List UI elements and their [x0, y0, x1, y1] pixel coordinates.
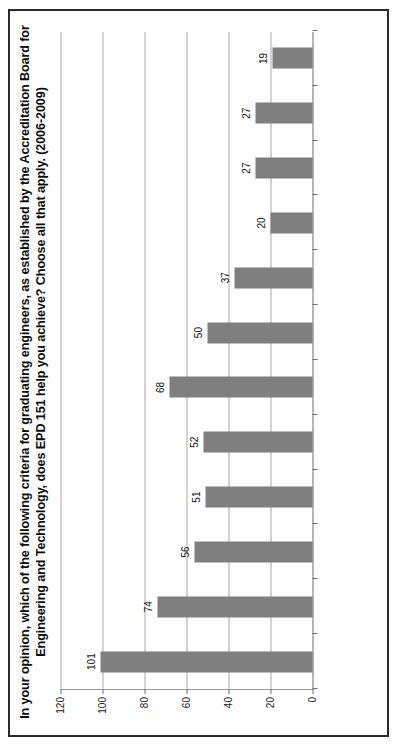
bar[interactable] [207, 322, 312, 343]
bar-series: 1017456515268503720272719 [60, 32, 312, 689]
bar-slot: 56 [60, 525, 312, 580]
y-tickmark [270, 689, 271, 694]
y-tick-label: 100 [97, 697, 108, 731]
x-axis-line [312, 32, 313, 690]
bar-slot: 19 [60, 31, 312, 86]
y-tickmark [186, 689, 187, 694]
bar-slot: 20 [60, 196, 312, 251]
bar-value-label: 56 [179, 546, 190, 557]
bar-slot: 27 [60, 141, 312, 196]
bar-slot: 50 [60, 305, 312, 360]
bar[interactable] [255, 158, 312, 179]
bar-slot: 37 [60, 250, 312, 305]
bar-slot: 52 [60, 415, 312, 470]
bar-value-label: 50 [192, 327, 203, 338]
bar[interactable] [194, 541, 312, 562]
bar-value-label: 27 [240, 163, 251, 174]
x-tickmark [312, 30, 317, 31]
y-tick-label: 0 [307, 697, 318, 731]
y-tick-label: 120 [55, 697, 66, 731]
bar-slot: 51 [60, 470, 312, 525]
bar-value-label: 74 [142, 601, 153, 612]
bar-value-label: 52 [188, 437, 199, 448]
bar-value-label: 27 [240, 108, 251, 119]
bar-value-label: 19 [257, 53, 268, 64]
y-tickmark [60, 689, 61, 694]
bar[interactable] [205, 487, 312, 508]
bar-value-label: 68 [154, 382, 165, 393]
y-tick-label: 20 [265, 697, 276, 731]
bar-slot: 27 [60, 86, 312, 141]
y-tickmark [102, 689, 103, 694]
bar[interactable] [100, 651, 312, 672]
y-tick-label: 60 [181, 697, 192, 731]
bar-value-label: 20 [255, 217, 266, 228]
y-tickmark [228, 689, 229, 694]
bar[interactable] [270, 212, 312, 233]
bar[interactable] [272, 48, 312, 69]
bar-value-label: 37 [219, 272, 230, 283]
rotated-chart-wrapper: In your opinion, which of the following … [8, 9, 389, 737]
bar-slot: 74 [60, 579, 312, 634]
chart-title: In your opinion, which of the following … [16, 25, 49, 719]
bar[interactable] [157, 596, 312, 617]
bar[interactable] [255, 103, 312, 124]
bar[interactable] [169, 377, 312, 398]
bar-value-label: 101 [85, 653, 96, 670]
bar-chart: In your opinion, which of the following … [8, 9, 389, 737]
y-tick-label: 40 [223, 697, 234, 731]
bar-slot: 68 [60, 360, 312, 415]
bar[interactable] [203, 432, 312, 453]
bar-value-label: 51 [190, 492, 201, 503]
bar[interactable] [234, 267, 312, 288]
y-tickmark [144, 689, 145, 694]
y-tick-label: 80 [139, 697, 150, 731]
bar-slot: 101 [60, 634, 312, 689]
plot-area: 1017456515268503720272719 [60, 32, 312, 690]
